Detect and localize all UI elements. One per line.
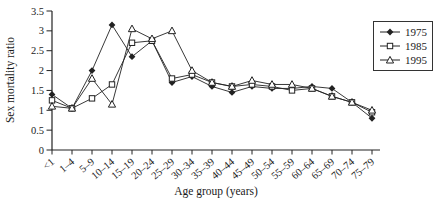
series-marker-1995	[288, 81, 295, 88]
legend: 1975 1985 1995	[373, 21, 433, 71]
series-marker-1995	[248, 77, 255, 84]
series-marker-1985	[109, 82, 114, 87]
x-tick-label: 75–79	[349, 156, 376, 181]
filled-diamond-icon	[379, 27, 401, 37]
x-tick-label: 1–4	[57, 156, 77, 175]
series-marker-1995	[188, 67, 195, 74]
series-marker-1975	[109, 22, 116, 29]
open-square-icon	[379, 41, 401, 51]
series-marker-1975	[49, 91, 56, 98]
y-axis-title: Sex mortality ratio	[4, 37, 16, 123]
y-tick-label: 0.5	[31, 125, 44, 136]
legend-label: 1995	[405, 53, 427, 67]
series-marker-1995	[128, 25, 135, 32]
legend-label: 1975	[405, 25, 427, 39]
y-tick-label: 3.5	[31, 6, 44, 17]
y-tick-label: 1	[39, 105, 44, 116]
y-tick-label: 0	[39, 145, 44, 156]
y-tick-label: 2	[39, 65, 44, 76]
y-tick-label: 3	[39, 25, 44, 36]
series-marker-1985	[169, 76, 174, 81]
mortality-ratio-chart: 00.511.522.533.5<11–45–910–1415–1920–242…	[0, 0, 437, 206]
series-line-1995	[52, 29, 372, 110]
series-marker-1985	[289, 88, 294, 93]
series-marker-1975	[89, 67, 96, 74]
y-tick-label: 1.5	[31, 85, 44, 96]
y-tick-label: 2.5	[31, 45, 44, 56]
legend-label: 1985	[405, 39, 427, 53]
series-marker-1985	[129, 40, 134, 45]
series-marker-1975	[329, 85, 336, 92]
legend-item-1995: 1995	[379, 53, 428, 67]
figure: 00.511.522.533.5<11–45–910–1415–1920–242…	[0, 0, 437, 206]
series-marker-1995	[168, 27, 175, 34]
series-line-1975	[52, 25, 372, 118]
series-marker-1975	[229, 89, 236, 96]
legend-item-1985: 1985	[379, 39, 428, 53]
x-axis-title: Age group (years)	[174, 185, 258, 197]
x-tick-label: <1	[41, 156, 57, 172]
open-triangle-icon	[379, 55, 401, 65]
series-marker-1985	[89, 96, 94, 101]
legend-item-1975: 1975	[379, 25, 428, 39]
